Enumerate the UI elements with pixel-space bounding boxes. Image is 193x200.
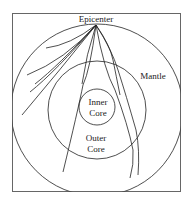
mantle-label: Mantle [137,71,169,81]
epicenter-label: Epicenter [76,14,116,24]
seismic-rays [22,25,139,178]
outer-core-label-2: Core [81,144,111,154]
inner-core-boundary [79,89,115,125]
outer-core-label-1: Outer [81,133,111,143]
inner-core-label-2: Core [84,108,112,118]
inner-core-label-1: Inner [84,97,112,107]
